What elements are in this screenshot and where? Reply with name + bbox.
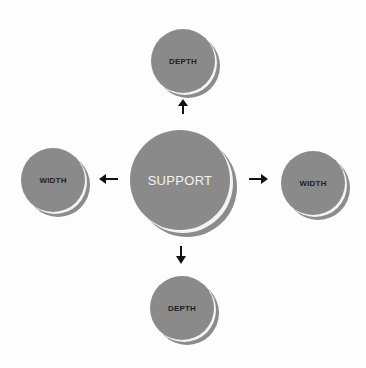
support-diagram: DEPTH WIDTH SUPPORT WIDTH (0, 0, 366, 368)
node-left-width: WIDTH (21, 148, 85, 212)
node-top-depth: DEPTH (151, 29, 215, 93)
node-bottom-depth: DEPTH (150, 276, 214, 340)
node-disc: DEPTH (151, 29, 215, 93)
center-label: SUPPORT (148, 173, 213, 188)
node-disc: WIDTH (21, 148, 85, 212)
arrow-left-icon (99, 173, 119, 185)
node-disc: DEPTH (150, 276, 214, 340)
node-disc: WIDTH (281, 151, 345, 215)
arrow-right-icon (248, 173, 268, 185)
arrow-down-icon (175, 246, 187, 264)
node-label: DEPTH (169, 57, 197, 66)
node-center-support: SUPPORT (130, 130, 230, 230)
node-label: WIDTH (39, 176, 66, 185)
node-disc: SUPPORT (130, 130, 230, 230)
node-right-width: WIDTH (281, 151, 345, 215)
node-label: DEPTH (168, 304, 196, 313)
node-label: WIDTH (299, 179, 326, 188)
arrow-up-icon (177, 99, 189, 115)
